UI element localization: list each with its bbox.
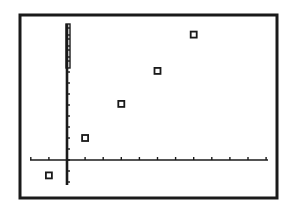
data-point-marker (82, 135, 88, 141)
data-point-marker (118, 101, 124, 107)
data-point-marker (191, 32, 197, 38)
data-point-marker (155, 68, 161, 74)
screen-frame (20, 15, 277, 198)
axes (30, 24, 268, 185)
data-point-marker (46, 172, 52, 178)
graph-screen (0, 0, 282, 202)
